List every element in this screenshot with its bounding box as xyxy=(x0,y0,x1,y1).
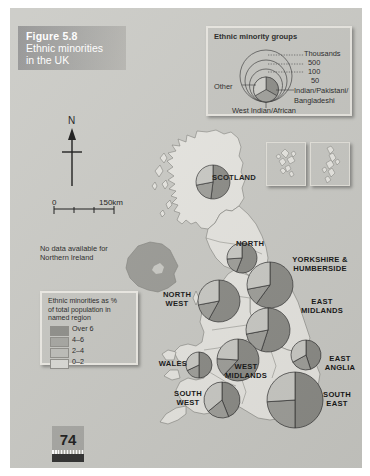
key-percent-title-line2: of total population in xyxy=(48,306,111,313)
key-swatch-2-4 xyxy=(50,348,69,358)
pie-slice-other xyxy=(246,308,268,334)
region-label-scotland: SCOTLAND xyxy=(212,174,256,183)
page-footer-bar xyxy=(52,452,84,462)
region-pie-wales xyxy=(186,352,212,378)
pie-slice-other xyxy=(196,165,213,185)
shetland-islands xyxy=(311,143,349,185)
region-label-wales: WALES xyxy=(159,360,187,369)
no-data-note-line1: No data available for xyxy=(40,244,108,253)
key-groups-label-west-indian: West Indian/African xyxy=(232,106,296,115)
region-pie-south-west xyxy=(204,382,240,418)
region-label-north: NORTH xyxy=(236,240,264,249)
page-number: 74 xyxy=(52,426,84,452)
pie-slice-west-indian-african xyxy=(267,400,295,428)
pie-slice-other xyxy=(217,339,238,360)
region-label-east-midlands: EAST MIDLANDS xyxy=(301,298,343,315)
pie-slice-other xyxy=(198,280,219,305)
key-groups-tick-50: 50 xyxy=(311,76,319,85)
key-groups-label-indian-line2: Bangladeshi xyxy=(294,96,335,105)
region-pie-south-east xyxy=(267,372,323,428)
key-label-2-4: 2–4 xyxy=(72,346,84,355)
region-label-west-midlands: WEST MIDLANDS xyxy=(225,363,267,380)
pie-slice-other xyxy=(267,372,295,402)
region-label-south-west: SOUTH WEST xyxy=(174,390,202,407)
scale-max-label: 150km xyxy=(99,198,123,207)
inset-shetland-box xyxy=(310,142,350,186)
key-label-0-2: 0–2 xyxy=(72,357,84,366)
key-label-4-6: 4–6 xyxy=(72,335,84,344)
key-groups-label-indian-line1: Indian/Pakistani/ xyxy=(294,86,348,95)
region-pie-yorkshire-humberside xyxy=(247,262,293,308)
no-data-note-line2: Northern Ireland xyxy=(40,253,93,262)
key-swatch-over6 xyxy=(50,326,69,336)
key-ethnic-groups: Ethnic minority groups xyxy=(206,26,352,116)
orkney-islands xyxy=(267,143,305,185)
key-percent-title: Ethnic minorities as % of total populati… xyxy=(48,297,140,323)
region-label-yorkshire-humberside: YORKSHIRE & HUMBERSIDE xyxy=(292,256,348,273)
scale-zero-label: 0 xyxy=(52,198,56,207)
key-percent-title-line1: Ethnic minorities as % xyxy=(48,297,117,304)
key-swatch-4-6 xyxy=(50,337,69,347)
figure-page: .land{stroke:#7d7d78;stroke-width:.6;} .… xyxy=(10,8,362,468)
no-data-note: No data available for Northern Ireland xyxy=(40,244,144,263)
region-label-north-west: NORTH WEST xyxy=(163,291,191,308)
key-percent-classes: Ethnic minorities as % of total populati… xyxy=(40,291,138,365)
region-label-south-east: SOUTH EAST xyxy=(323,391,351,408)
figure-title-line2: in the UK xyxy=(26,54,120,66)
north-label: N xyxy=(68,115,75,126)
figure-number: Figure 5.8 xyxy=(26,30,120,42)
region-label-east-anglia: EAST ANGLIA xyxy=(325,355,356,372)
region-pie-north-west xyxy=(198,280,240,322)
pie-slice-indian-pakistani-bangladeshi xyxy=(295,372,323,428)
key-label-over6: Over 6 xyxy=(72,324,94,333)
inset-orkney-box xyxy=(266,142,306,186)
key-percent-title-line3: named region xyxy=(48,314,91,321)
key-groups-label-other: Other xyxy=(214,82,232,91)
key-groups-tick-500: 500 xyxy=(308,58,320,67)
pie-slice-indian-pakistani-bangladeshi xyxy=(199,352,212,378)
key-swatch-0-2 xyxy=(50,359,69,369)
region-pie-east-anglia xyxy=(291,340,321,370)
figure-title-block: Figure 5.8 Ethnic minorities in the UK xyxy=(18,26,126,70)
key-groups-tick-100: 100 xyxy=(308,67,320,76)
key-groups-units: Thousands xyxy=(304,49,341,58)
figure-title-line1: Ethnic minorities xyxy=(26,42,120,54)
